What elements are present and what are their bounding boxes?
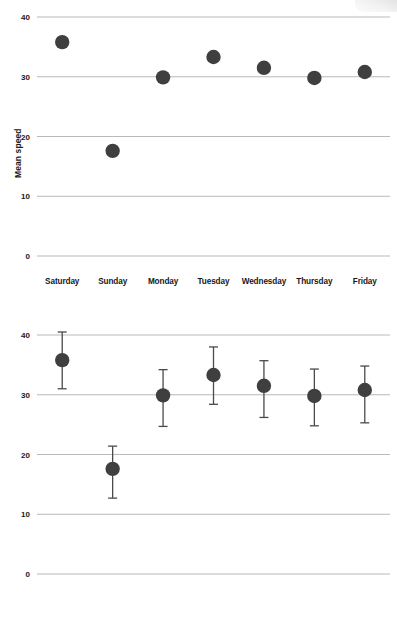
y-axis-title-top: Mean speed [13,128,23,178]
data-point-marker [55,353,69,367]
data-point-marker [55,35,69,49]
x-axis-label-monday: Monday [138,274,188,290]
chart-panel-bottom: 010203040 Mean speed SaturdaySundayMonda… [0,310,397,627]
x-axis-label-saturday: Saturday [37,274,87,290]
data-point-marker [156,70,170,84]
y-axis-tick-label: 40 [21,331,30,340]
y-axis-tick-label: 10 [21,192,30,201]
data-point-marker [257,379,271,393]
data-point-marker [105,462,119,476]
y-axis-tick-label: 0 [26,570,31,579]
data-point-marker [358,383,372,397]
data-point-marker [206,368,220,382]
y-axis-tick-label: 10 [21,510,30,519]
x-axis-label-friday: Friday [340,274,390,290]
data-point-marker [156,388,170,402]
y-axis-tick-label: 0 [26,252,31,261]
data-point-marker [307,71,321,85]
y-axis-tick-label: 40 [21,13,30,22]
x-axis-label-thursday: Thursday [289,274,339,290]
data-point-marker [307,389,321,403]
x-axis-label-sunday: Sunday [87,274,137,290]
x-axis-label-wednesday: Wednesday [239,274,289,290]
y-axis-tick-label: 30 [21,73,30,82]
data-point-marker [257,61,271,75]
x-axis-label-tuesday: Tuesday [188,274,238,290]
scatter-plot-top: 010203040 [0,0,397,310]
data-point-marker [358,65,372,79]
chart-panel-top: 010203040 Mean speed SaturdaySundayMonda… [0,0,397,310]
data-point-marker [206,50,220,64]
y-axis-tick-label: 30 [21,391,30,400]
scatter-plot-bottom-with-error-bars: 010203040 [0,310,397,627]
y-axis-tick-label: 20 [21,451,30,460]
data-point-marker [105,144,119,158]
x-axis-labels-top: SaturdaySundayMondayTuesdayWednesdayThur… [0,274,397,290]
